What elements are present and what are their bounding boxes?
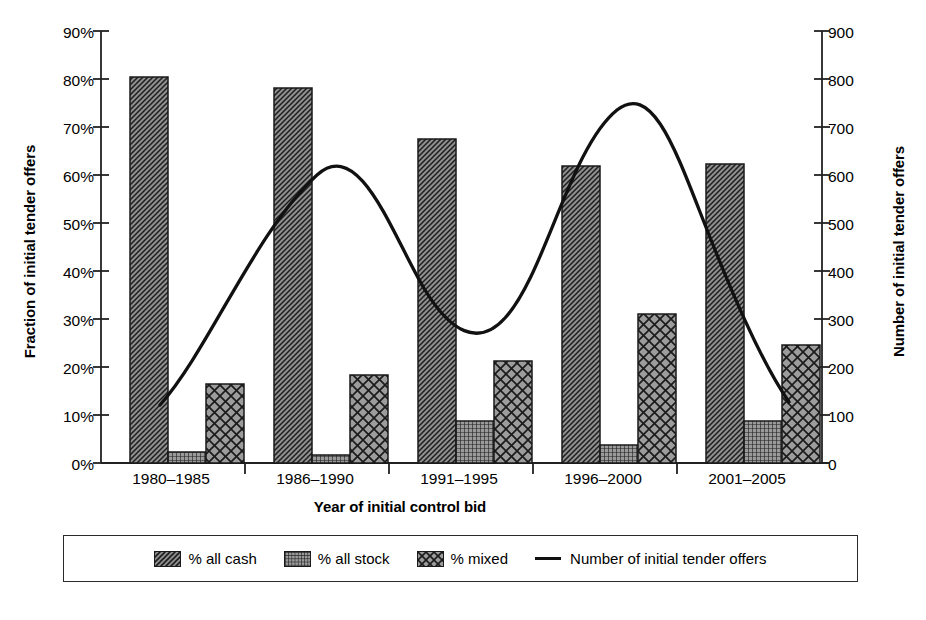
line-marker-icon xyxy=(535,557,561,560)
bar-group-1986-1990 xyxy=(274,88,388,463)
bar-group-1991-1995 xyxy=(418,139,532,463)
bar-all-cash-1986-1990 xyxy=(274,88,312,463)
legend-item-mixed: % mixed xyxy=(417,550,509,567)
legend-label-all-cash: % all cash xyxy=(188,550,256,567)
x-axis-ticks xyxy=(245,463,677,474)
bar-all-cash-1980-1985 xyxy=(130,77,168,463)
bar-all-cash-2001-2005 xyxy=(706,164,744,463)
bar-all-stock-2001-2005 xyxy=(744,421,782,463)
bar-all-cash-1996-2000 xyxy=(562,166,600,463)
line-number-of-offers xyxy=(160,104,789,405)
legend-label-mixed: % mixed xyxy=(451,550,509,567)
bar-all-stock-1980-1985 xyxy=(168,452,206,463)
swatch-grid-hatch-icon xyxy=(284,551,311,567)
bar-group-1980-1985 xyxy=(130,77,244,463)
plot-area xyxy=(0,0,926,620)
bar-group-2001-2005 xyxy=(706,164,820,463)
bar-all-stock-1986-1990 xyxy=(312,455,350,463)
bar-mixed-2001-2005 xyxy=(782,345,820,463)
swatch-diagonal-hatch-icon xyxy=(154,551,181,567)
bar-mixed-1991-1995 xyxy=(494,361,532,463)
bar-group-1996-2000 xyxy=(562,166,676,463)
legend-item-all-stock: % all stock xyxy=(284,550,390,567)
legend-item-number-of-offers: Number of initial tender offers xyxy=(535,550,767,567)
bar-all-stock-1991-1995 xyxy=(456,421,494,463)
swatch-cross-hatch-icon xyxy=(417,551,444,567)
legend-label-all-stock: % all stock xyxy=(318,550,390,567)
bar-mixed-1996-2000 xyxy=(638,314,676,463)
bar-all-stock-1996-2000 xyxy=(600,445,638,463)
bar-all-cash-1991-1995 xyxy=(418,139,456,463)
chart-figure: Fraction of initial tender offers Number… xyxy=(0,0,926,620)
bar-mixed-1986-1990 xyxy=(350,375,388,463)
bar-mixed-1980-1985 xyxy=(206,384,244,463)
legend-label-number-of-offers: Number of initial tender offers xyxy=(570,550,767,567)
chart-legend: % all cash % all stock % mixed xyxy=(63,535,858,582)
legend-item-all-cash: % all cash xyxy=(154,550,256,567)
